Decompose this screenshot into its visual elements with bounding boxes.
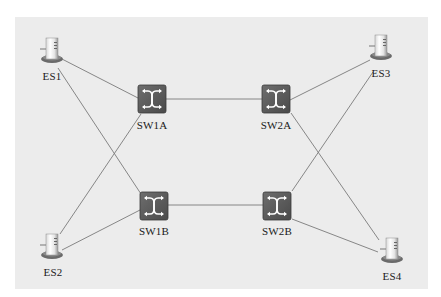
end-station-es3-icon[interactable] xyxy=(369,35,392,60)
node-label-sw1b: SW1B xyxy=(134,225,174,237)
link-es2-sw1b xyxy=(62,210,140,250)
node-label-sw2b: SW2B xyxy=(257,225,297,237)
end-station-es1-icon[interactable] xyxy=(40,38,63,63)
node-label-es4: ES4 xyxy=(372,270,412,282)
node-label-es1: ES1 xyxy=(32,70,72,82)
node-label-sw1a: SW1A xyxy=(132,119,172,131)
end-station-es4-icon[interactable] xyxy=(380,238,403,263)
link-sw2a-es4 xyxy=(291,113,379,240)
switch-sw2b-icon[interactable] xyxy=(263,192,291,220)
end-station-es2-icon[interactable] xyxy=(40,234,63,259)
switch-sw2a-icon[interactable] xyxy=(262,85,290,113)
node-label-es3: ES3 xyxy=(361,67,401,79)
node-label-es2: ES2 xyxy=(33,266,73,278)
switch-sw1b-icon[interactable] xyxy=(140,192,168,220)
network-links xyxy=(0,0,441,297)
link-sw2b-es4 xyxy=(292,219,378,252)
switch-sw1a-icon[interactable] xyxy=(138,85,166,113)
node-label-sw2a: SW2A xyxy=(256,119,296,131)
